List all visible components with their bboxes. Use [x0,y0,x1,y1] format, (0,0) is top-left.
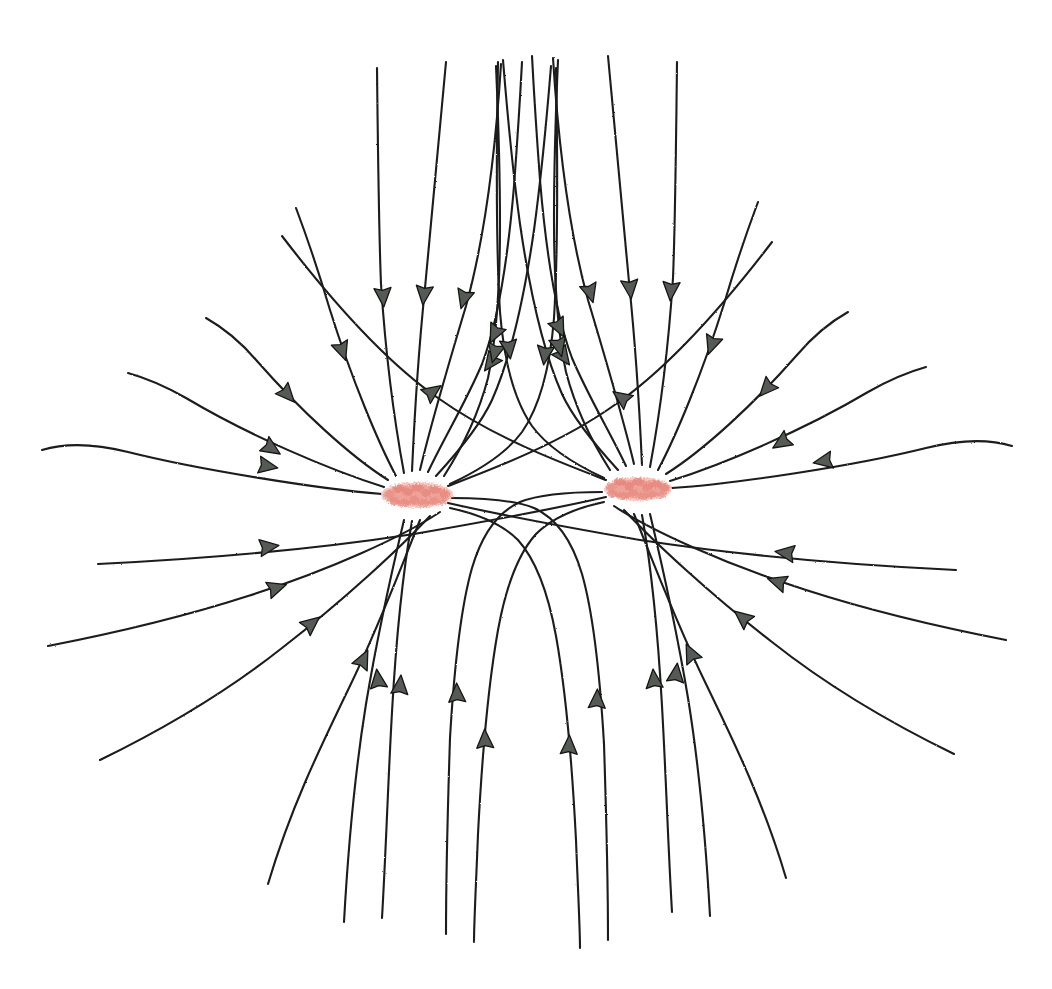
charge-right-speckle [658,492,666,498]
electric-field-diagram [0,0,1052,989]
charge-left-speckle [385,490,395,498]
charge-left [381,482,453,508]
charge-left-speckle [409,496,419,504]
field-line-canvas [0,0,1052,989]
charge-left-speckle [389,497,399,505]
charge-left-speckle [411,484,423,492]
charge-right-speckle [608,490,618,498]
charge-left-speckle [429,497,439,505]
charge-right-speckle [606,483,616,491]
charge-left-speckle [418,499,430,507]
charge-right-speckle [659,484,669,492]
charge-left-speckle [429,486,441,494]
charge-left-speckle [439,499,447,505]
charge-right-speckle [637,492,649,500]
charge-right-speckle [628,489,638,497]
charge-right-speckle [614,478,626,486]
charge-right [604,477,672,501]
charge-left-speckle [398,499,410,507]
charge-right-speckle [617,492,629,500]
charge-right-speckle [648,490,658,498]
charge-right-speckle [632,478,644,486]
charge-left-speckle [439,490,449,498]
paper-background [0,0,1052,989]
